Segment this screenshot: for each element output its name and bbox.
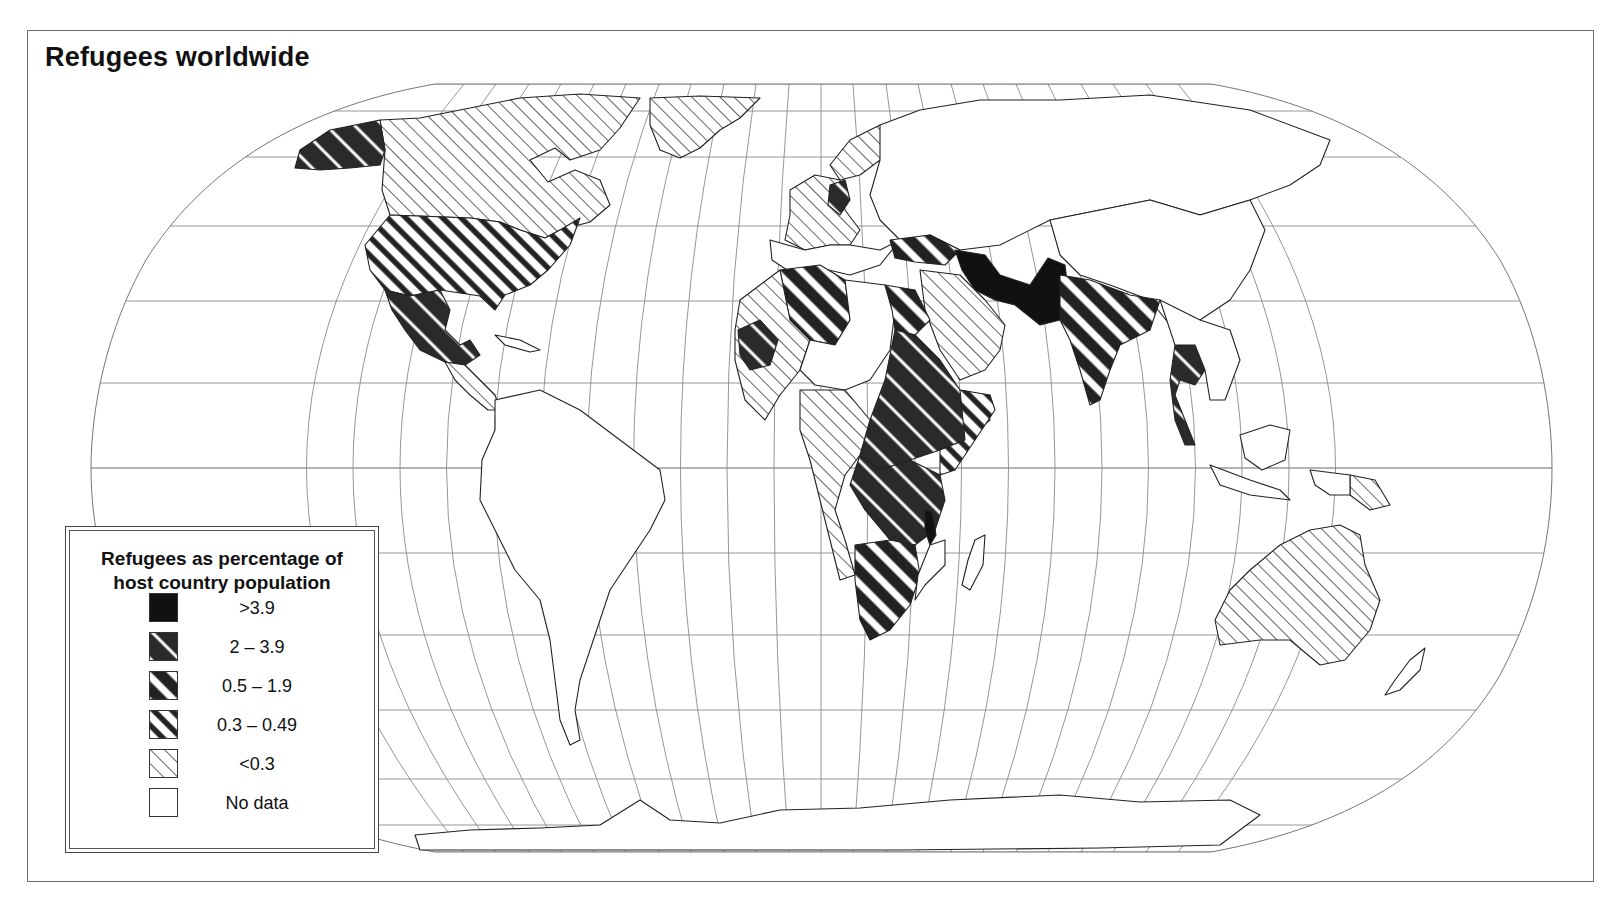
swatch-light-hatch-icon xyxy=(149,749,178,778)
legend-label: >3.9 xyxy=(187,596,327,620)
legend-title-line1: Refugees as percentage of xyxy=(66,547,378,571)
legend-label: <0.3 xyxy=(187,752,327,776)
legend-label: 0.3 – 0.49 xyxy=(187,713,327,737)
swatch-white-icon xyxy=(149,788,178,817)
region-caribbean xyxy=(495,335,540,352)
region-new-zealand xyxy=(1385,648,1425,695)
region-new-guinea-west xyxy=(1310,470,1350,495)
legend-item-medium: 0.3 – 0.49 xyxy=(149,710,369,740)
region-madagascar xyxy=(962,535,985,590)
region-greenland xyxy=(650,96,760,158)
region-antarctica xyxy=(415,795,1260,850)
legend-label: No data xyxy=(187,791,327,815)
region-indonesia xyxy=(1210,465,1290,500)
swatch-medium-hatch-icon xyxy=(149,710,178,739)
region-thailand xyxy=(1170,345,1205,445)
region-central-america xyxy=(445,362,500,410)
region-mozambique xyxy=(915,540,945,600)
swatch-solid-black-icon xyxy=(149,593,178,622)
legend-title: Refugees as percentage of host country p… xyxy=(66,547,378,595)
legend-title-line2: host country population xyxy=(66,571,378,595)
swatch-bold-hatch-icon xyxy=(149,671,178,700)
region-australia xyxy=(1215,525,1380,665)
legend-item-bold: 0.5 – 1.9 xyxy=(149,671,369,701)
region-papua-new-guinea xyxy=(1350,475,1390,510)
swatch-dense-hatch-icon xyxy=(149,632,178,661)
legend-item-light: <0.3 xyxy=(149,749,369,779)
legend-item-dense: 2 – 3.9 xyxy=(149,632,369,662)
legend-label: 0.5 – 1.9 xyxy=(187,674,327,698)
legend-label: 2 – 3.9 xyxy=(187,635,327,659)
legend-item-no-data: No data xyxy=(149,788,369,818)
region-alaska xyxy=(295,120,385,170)
region-western-europe xyxy=(785,175,860,250)
legend-item-solid: >3.9 xyxy=(149,593,369,623)
region-borneo xyxy=(1240,425,1290,470)
legend-panel: Refugees as percentage of host country p… xyxy=(65,526,379,853)
